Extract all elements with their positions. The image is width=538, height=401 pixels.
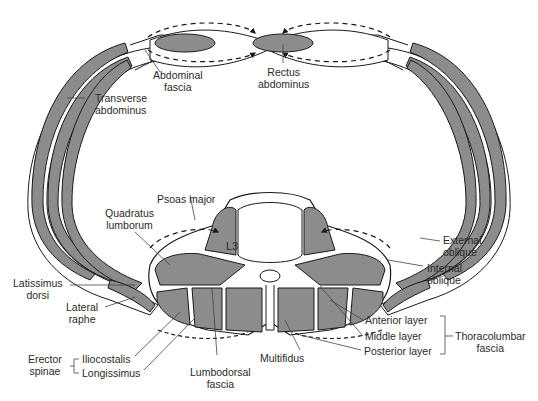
label-abdominal-fascia: Abdominalfascia	[153, 69, 203, 93]
spinal-canal	[260, 270, 280, 282]
vertebral-body	[238, 203, 302, 263]
label-thoracolumbar-fascia: Thoracolumbarfascia	[455, 330, 526, 354]
label-multifidus: Multifidus	[260, 352, 304, 364]
label-longissimus: Longissimus	[82, 367, 140, 379]
label-external-oblique: Externaloblique	[443, 234, 482, 258]
label-iliocostalis: Iliocostalis	[82, 353, 130, 365]
right-longissimus	[318, 288, 348, 330]
left-longissimus	[192, 288, 222, 330]
rectus-abdominus	[148, 23, 390, 67]
left-iliocostalis	[157, 288, 190, 325]
lumbar-region	[149, 193, 391, 339]
right-multifidus	[278, 288, 314, 332]
left-multifidus	[226, 288, 262, 332]
label-anterior-layer: Anterior layer	[365, 314, 427, 326]
label-lumbodorsal-fascia: Lumbodorsalfascia	[190, 366, 251, 390]
label-posterior-layer: Posterior layer	[364, 345, 432, 357]
label-psoas-major: Psoas major	[157, 193, 215, 205]
label-quadratus-lumborum: Quadratuslumborum	[105, 207, 154, 231]
label-vertebra-l3: L3	[226, 240, 238, 252]
label-internal-oblique: Internaloblique	[427, 262, 462, 286]
label-middle-layer: Middle layer	[365, 330, 422, 342]
label-erector-spinae: Erectorspinae	[28, 353, 62, 377]
label-lateral-raphe: Lateralraphe	[66, 301, 98, 325]
label-rectus-abdominus: Rectusabdominus	[258, 66, 309, 90]
label-latissimus-dorsi: Latissimusdorsi	[13, 277, 63, 301]
label-transverse-abdominus: Transverseabdominus	[95, 92, 147, 116]
